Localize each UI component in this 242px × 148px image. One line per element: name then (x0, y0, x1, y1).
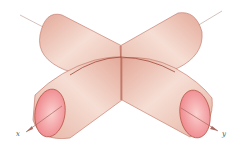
x-axis-arrow-icon (26, 126, 33, 132)
y-axis-back-line (197, 11, 222, 26)
x-axis-label: x (16, 130, 20, 138)
diagram-canvas: x y (0, 0, 242, 148)
y-axis-label: y (221, 130, 227, 138)
x-axis-back-line (20, 15, 45, 28)
intersecting-cylinders-diagram: x y (0, 0, 242, 148)
